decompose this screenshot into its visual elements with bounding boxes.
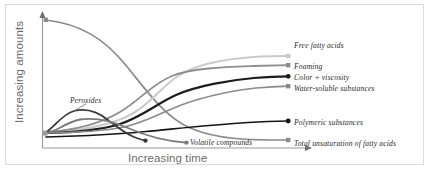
series-water-soluble-substances bbox=[46, 84, 290, 133]
series-label-foaming: Foaming bbox=[294, 62, 322, 71]
origin-marker bbox=[42, 131, 47, 136]
series-label-water-soluble-substances: Water-soluble substances bbox=[294, 84, 375, 93]
series-label-color-viscosity: Color + viscosity bbox=[294, 73, 349, 82]
series-label-polymeric-substances: Polymeric substances bbox=[294, 118, 363, 127]
series-label-total-unsaturation: Total unsaturation of fatty acids bbox=[294, 139, 396, 148]
series-label-volatile-compounds: Volatile compounds bbox=[190, 138, 252, 147]
series-total-unsaturation bbox=[44, 18, 291, 143]
y-axis-title: Increasing amounts bbox=[13, 17, 25, 127]
chart-figure: Increasing amounts Increasing time Free … bbox=[0, 0, 429, 174]
x-axis bbox=[43, 145, 313, 151]
series-label-peroxides: Peroxides bbox=[70, 96, 101, 105]
series-label-free-fatty-acids: Free fatty acids bbox=[294, 41, 344, 50]
x-axis-title: Increasing time bbox=[128, 152, 207, 164]
y-axis bbox=[39, 11, 45, 148]
series-polymeric-substances bbox=[46, 119, 291, 137]
